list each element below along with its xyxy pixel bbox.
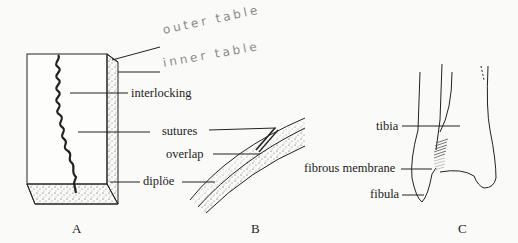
label-diploe: diplöe — [143, 175, 174, 188]
figure-c-caption: C — [458, 222, 467, 235]
label-interlocking: interlocking — [131, 87, 191, 100]
figure-c-tibia-fibula — [401, 64, 496, 202]
label-sutures: sutures — [162, 125, 197, 138]
label-tibia: tibia — [376, 120, 398, 133]
label-fibrous-membrane: fibrous membrane — [304, 162, 395, 175]
label-fibula: fibula — [370, 188, 399, 201]
figure-a-caption: A — [72, 222, 81, 235]
figure-a-skull-block — [27, 47, 160, 204]
figure-b-overlap-suture — [182, 118, 305, 213]
figure-b-caption: B — [251, 222, 260, 235]
label-overlap: overlap — [166, 148, 203, 161]
anatomy-diagram — [0, 0, 518, 243]
